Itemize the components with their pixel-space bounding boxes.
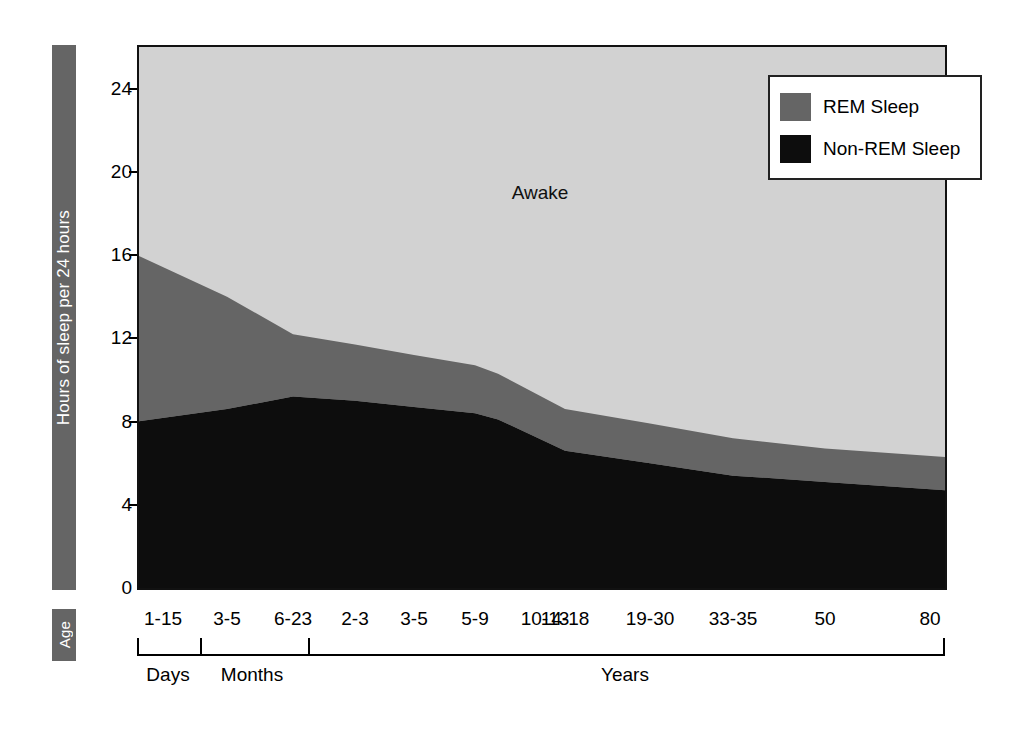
age-group-label: Years	[601, 664, 649, 686]
age-group-label: Days	[146, 664, 189, 686]
bracket-tick	[943, 638, 945, 656]
x-axis-tick-label: 80	[919, 608, 940, 630]
y-axis-tick-labels: 04812162024	[90, 0, 132, 729]
x-axis-tick-label: 33-35	[709, 608, 758, 630]
y-axis-tick-label: 8	[92, 411, 132, 433]
y-axis-tick-label: 12	[92, 327, 132, 349]
x-axis-tick-label: 1-15	[144, 608, 182, 630]
x-axis-tick-label: 6-23	[274, 608, 312, 630]
x-axis-tick-label: 14-18	[541, 608, 590, 630]
awake-annotation: Awake	[512, 182, 569, 204]
sleep-chart-figure: Hours of sleep per 24 hours Age 04812162…	[0, 0, 1020, 729]
legend-swatch-non-rem-icon	[780, 135, 811, 163]
x-axis-title: Age	[56, 621, 73, 648]
y-axis-tick-label: 4	[92, 494, 132, 516]
age-group-bracket	[137, 638, 945, 660]
legend-label-non-rem: Non-REM Sleep	[823, 138, 960, 160]
y-axis-title-bar: Hours of sleep per 24 hours	[52, 45, 76, 590]
bracket-tick	[137, 638, 139, 656]
y-axis-tick-label: 20	[92, 161, 132, 183]
bracket-line	[137, 654, 945, 656]
y-axis-tick-label: 24	[92, 78, 132, 100]
y-axis-tick-label: 0	[92, 577, 132, 599]
x-axis-tick-label: 19-30	[626, 608, 675, 630]
legend-label-rem: REM Sleep	[823, 96, 919, 118]
x-axis-tick-label: 50	[814, 608, 835, 630]
x-axis-tick-label: 5-9	[461, 608, 488, 630]
x-axis-tick-label: 2-3	[341, 608, 368, 630]
x-axis-tick-label: 3-5	[400, 608, 427, 630]
legend-item-rem: REM Sleep	[780, 86, 970, 128]
bracket-tick	[308, 638, 310, 656]
age-group-label: Months	[221, 664, 283, 686]
legend-swatch-rem-icon	[780, 93, 811, 121]
x-axis-tick-label: 3-5	[213, 608, 240, 630]
legend: REM Sleep Non-REM Sleep	[768, 75, 982, 180]
x-axis-title-bar: Age	[52, 609, 76, 661]
bracket-tick	[200, 638, 202, 656]
y-axis-title: Hours of sleep per 24 hours	[54, 210, 74, 425]
legend-item-non-rem: Non-REM Sleep	[780, 128, 970, 170]
y-axis-tick-label: 16	[92, 244, 132, 266]
